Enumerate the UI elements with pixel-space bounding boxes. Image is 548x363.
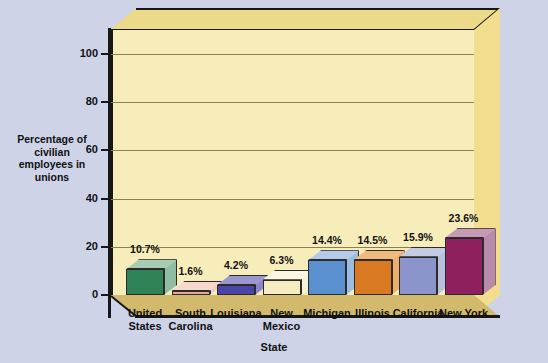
x-axis-title: State (0, 341, 548, 353)
bar-new-york: 23.6% (445, 238, 483, 295)
bar-michigan: 14.4% (308, 260, 346, 295)
bar-series: 10.7%1.6%4.2%6.3%14.4%14.5%15.9%23.6% (0, 0, 548, 305)
bar-front-face (445, 238, 483, 295)
x-label-line: New York (429, 307, 499, 320)
bar-illinois: 14.5% (354, 260, 392, 295)
bar-california: 15.9% (399, 257, 437, 295)
x-label-new-york: New York (429, 307, 499, 320)
bar-value-label: 15.9% (386, 231, 450, 243)
bar-front-face (263, 280, 301, 295)
x-label-line: Mexico (247, 320, 317, 333)
bar-front-face (308, 260, 346, 295)
bar-front-face (399, 257, 437, 295)
x-label-line: Carolina (156, 320, 226, 333)
bar-new-mexico: 6.3% (263, 280, 301, 295)
bar-front-face (217, 285, 255, 295)
chart-canvas: 020406080100 Percentage of civilian empl… (0, 0, 548, 363)
bar-side-face (483, 228, 496, 295)
bar-front-face (172, 291, 210, 295)
bar-south-carolina: 1.6% (172, 291, 210, 295)
bar-value-label: 6.3% (250, 254, 314, 266)
bar-value-label: 10.7% (113, 243, 177, 255)
bar-louisiana: 4.2% (217, 285, 255, 295)
bar-front-face (354, 260, 392, 295)
bar-value-label: 23.6% (432, 212, 496, 224)
